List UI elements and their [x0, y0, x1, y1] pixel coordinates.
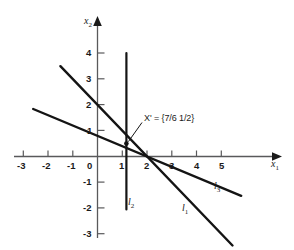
y-tick-label-3: 3	[86, 74, 91, 84]
line-l3	[33, 109, 241, 196]
intersection-point-marker	[124, 141, 129, 146]
y-axis-arrowhead	[93, 16, 102, 26]
x-tick-label-3: 3	[169, 161, 174, 171]
y-axis-label: x2	[84, 16, 92, 29]
line-label-l1: l1	[182, 203, 188, 216]
y-axis	[93, 16, 102, 238]
x-tick-label-5: 5	[219, 161, 224, 171]
x-tick-label-0: 0	[87, 161, 92, 171]
y-tick-label--3: -3	[83, 229, 91, 239]
line-intersection-diagram: -3 -2 -1 0 1 2 3 4 5 4 3 2 1 -1 -2 -3 x1…	[0, 0, 294, 250]
annotation-leader-line	[128, 123, 142, 142]
x-axis-label: x1	[271, 159, 279, 172]
x-axis-ticks	[23, 151, 221, 157]
plot-canvas	[0, 0, 294, 250]
x-tick-label-2: 2	[144, 161, 149, 171]
x-tick-label-4: 4	[194, 161, 199, 171]
y-tick-label--1: -1	[83, 177, 91, 187]
intersection-point-label: X' = {7/6 1/2}	[144, 114, 194, 123]
y-tick-label-1: 1	[87, 126, 92, 136]
y-axis-ticks	[98, 53, 105, 234]
line-label-l2: l2	[128, 197, 134, 210]
y-tick-label-4: 4	[86, 48, 91, 58]
x-tick-label--1: -1	[67, 161, 75, 171]
y-tick-label--2: -2	[83, 203, 91, 213]
line-label-l3: l3	[214, 181, 220, 194]
y-tick-label-2: 2	[86, 100, 91, 110]
x-tick-label--2: -2	[42, 161, 50, 171]
x-tick-label--3: -3	[17, 161, 25, 171]
x-tick-label-1: 1	[119, 161, 124, 171]
